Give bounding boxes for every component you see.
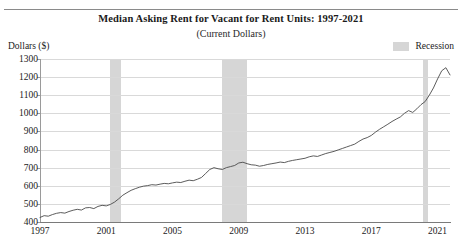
y-tick-label: 500: [24, 199, 38, 209]
y-tick-label: 1100: [19, 90, 38, 100]
legend-label-recession: Recession: [415, 41, 454, 51]
series-polyline: [40, 68, 450, 218]
plot-area: [40, 59, 450, 222]
x-tick-label: 2009: [229, 226, 248, 236]
chart-title: Median Asking Rent for Vacant for Rent U…: [0, 13, 462, 24]
y-tick-label: 1000: [19, 108, 38, 118]
chart-subtitle: (Current Dollars): [0, 28, 462, 39]
y-tick-label: 1300: [19, 54, 38, 64]
y-tick-label: 900: [24, 126, 38, 136]
y-tick-label: 600: [24, 181, 38, 191]
legend: Recession: [393, 41, 454, 51]
x-tick-label: 2021: [428, 226, 447, 236]
x-axis-line: [40, 222, 451, 223]
y-tick-label: 700: [24, 163, 38, 173]
recession-swatch-icon: [393, 42, 409, 51]
x-tick-label: 2013: [296, 226, 315, 236]
chart-figure: Median Asking Rent for Vacant for Rent U…: [0, 0, 462, 249]
x-tick-label: 2005: [163, 226, 182, 236]
x-tick-label: 2001: [97, 226, 116, 236]
y-tick-label: 1200: [19, 72, 38, 82]
series-line-chart: [40, 59, 450, 222]
x-tick-label: 1997: [31, 226, 50, 236]
y-tick-label: 800: [24, 145, 38, 155]
top-divider: [4, 9, 458, 10]
x-tick-label: 2017: [362, 226, 381, 236]
y-axis-label: Dollars ($): [8, 41, 49, 51]
